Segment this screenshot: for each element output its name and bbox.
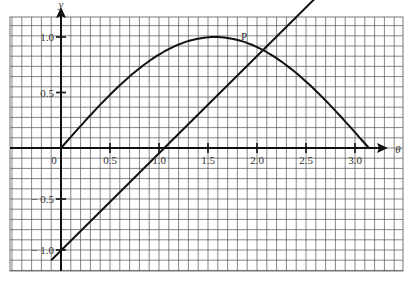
graph-paper-grid: [10, 17, 403, 271]
y-tick-label: 0.5: [40, 87, 54, 99]
x-tick-label: 0.5: [103, 154, 117, 166]
curves: [51, 0, 369, 260]
y-axis-label: y: [58, 0, 64, 10]
x-tick-label: 1.5: [201, 154, 215, 166]
x-tick-label: 2.5: [299, 154, 313, 166]
sine-curve: [61, 37, 369, 148]
y-tick-label: − 0.5: [31, 193, 54, 205]
x-axis-label: θ: [395, 143, 401, 155]
y-tick-label: 1.0: [40, 31, 54, 43]
y-tick-label: − 1.0: [31, 244, 54, 256]
graph-figure: 0.51.01.52.02.53.01.00.5− 0.5− 1.00yθP: [0, 0, 415, 282]
x-tick-label: 3.0: [348, 154, 362, 166]
axes: [10, 7, 388, 271]
x-tick-label: 2.0: [250, 154, 264, 166]
point-p-label: P: [241, 30, 247, 42]
straight-line: [51, 0, 321, 260]
origin-label: 0: [51, 154, 57, 166]
x-tick-label: 1.0: [152, 154, 166, 166]
grid-border: [10, 17, 403, 271]
axis-labels: 0.51.01.52.02.53.01.00.5− 0.5− 1.00yθP: [31, 0, 401, 256]
